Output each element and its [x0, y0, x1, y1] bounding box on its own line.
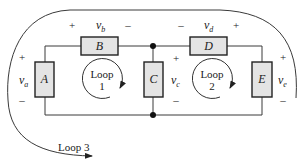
node-top: [150, 43, 156, 49]
e-plus: +: [280, 51, 286, 63]
loop-2: Loop 2: [192, 59, 232, 99]
d-plus: +: [233, 19, 239, 31]
c-minus: –: [172, 94, 179, 106]
component-d: D – + vd: [177, 18, 239, 55]
voltage-e: ve: [278, 73, 287, 89]
loop-3-label: Loop 3: [58, 141, 90, 153]
b-plus: +: [69, 19, 75, 31]
a-plus: +: [19, 51, 25, 63]
svg-text:Loop: Loop: [90, 68, 114, 80]
node-bottom: [150, 112, 156, 118]
svg-text:Loop: Loop: [200, 68, 224, 80]
voltage-b: vb: [96, 18, 105, 34]
component-c: C + – vc: [144, 52, 180, 106]
svg-text:2: 2: [209, 80, 215, 92]
svg-text:A: A: [40, 72, 49, 86]
voltage-d: vd: [204, 18, 214, 34]
svg-text:C: C: [149, 72, 158, 86]
svg-text:B: B: [96, 39, 104, 53]
component-a: A + – va: [18, 51, 54, 106]
svg-text:E: E: [257, 72, 266, 86]
component-b: B + – vb: [69, 18, 131, 55]
svg-text:D: D: [203, 39, 213, 53]
e-minus: –: [279, 94, 286, 106]
voltage-a: va: [19, 73, 28, 89]
b-minus: –: [124, 19, 131, 31]
component-e: E + – ve: [252, 51, 287, 106]
voltage-c: vc: [171, 73, 180, 89]
loop-1: Loop 1: [82, 59, 122, 99]
c-plus: +: [173, 52, 179, 64]
d-minus: –: [177, 19, 184, 31]
svg-text:1: 1: [99, 80, 105, 92]
a-minus: –: [18, 94, 25, 106]
circuit-diagram: A + – va B + – vb C + – vc D – + vd E + …: [0, 0, 305, 165]
